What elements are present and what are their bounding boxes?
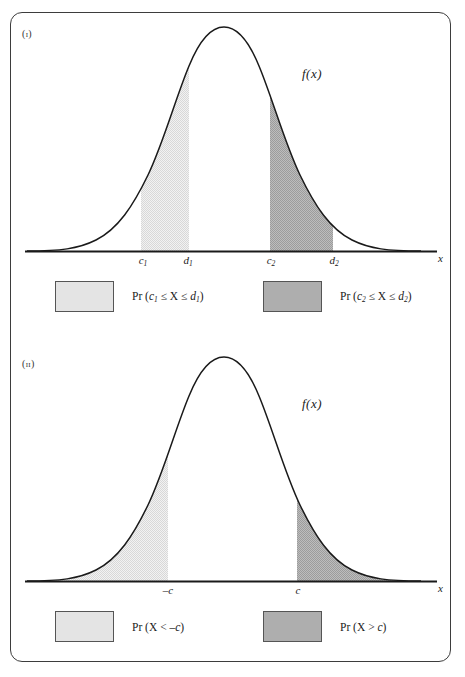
shaded-region-c1-d1 <box>141 20 189 252</box>
density-curve <box>27 357 421 581</box>
panel-two: (ii) <box>0 330 465 670</box>
shaded-region-right-tail <box>297 350 432 582</box>
tick-label-d2: d2 <box>329 254 338 268</box>
legend-label-light-two: Pr (X < –c) <box>132 621 184 633</box>
tick-label-c2: c2 <box>267 254 276 268</box>
legend-swatch-light-two <box>55 611 114 642</box>
figure-root: (i) <box>0 0 465 677</box>
shaded-region-c2-d2 <box>270 20 333 252</box>
panel-one: (i) <box>0 0 465 330</box>
legend-item-dark-one: Pr (c2 ≤ X ≤ d2) <box>263 281 412 312</box>
legend-swatch-dark-two <box>263 611 322 642</box>
density-curve <box>27 27 421 251</box>
tick-label-c: c <box>296 584 301 598</box>
legend-label-dark-one: Pr (c2 ≤ X ≤ d2) <box>340 290 412 304</box>
density-function-label: f(x) <box>302 396 322 412</box>
legend-swatch-light-one <box>55 281 114 312</box>
legend-item-dark-two: Pr (X > c) <box>263 611 386 642</box>
x-axis-label: x <box>438 252 443 264</box>
legend-item-light-one: Pr (c1 ≤ X ≤ d1) <box>55 281 204 312</box>
legend-label-dark-two: Pr (X > c) <box>340 621 386 633</box>
tick-label-minus-c: –c <box>163 584 173 598</box>
tick-label-d1: d1 <box>183 254 192 268</box>
x-axis-label: x <box>438 582 443 594</box>
shaded-region-left-tail <box>20 350 168 582</box>
panel-two-plot <box>0 330 465 600</box>
legend-label-light-one: Pr (c1 ≤ X ≤ d1) <box>132 290 204 304</box>
legend-item-light-two: Pr (X < –c) <box>55 611 184 642</box>
panel-one-plot <box>0 0 465 270</box>
density-function-label: f(x) <box>302 66 322 82</box>
legend-swatch-dark-one <box>263 281 322 312</box>
tick-label-c1: c1 <box>139 254 148 268</box>
